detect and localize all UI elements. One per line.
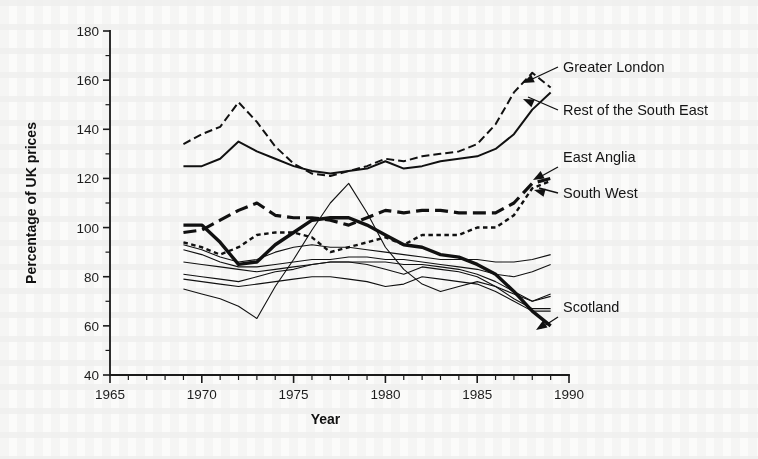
series-line-rest-of-the-south-east	[183, 92, 550, 173]
x-tick-label-1990: 1990	[554, 387, 584, 402]
x-tick-label-1965: 1965	[95, 387, 125, 402]
x-axis-title: Year	[311, 411, 341, 427]
series-label-rest-of-the-south-east: Rest of the South East	[563, 102, 708, 118]
y-tick-label-120: 120	[76, 171, 99, 186]
leader-arrow-rest-of-the-south-east	[523, 99, 535, 107]
y-tick-label-60: 60	[84, 319, 99, 334]
series-line-greater-london	[183, 73, 550, 176]
y-tick-label-160: 160	[76, 73, 99, 88]
leader-arrow-east-anglia	[533, 171, 545, 180]
series-label-south-west: South West	[563, 185, 638, 201]
x-tick-label-1980: 1980	[370, 387, 400, 402]
x-tick-label-1970: 1970	[187, 387, 217, 402]
y-tick-label-140: 140	[76, 122, 99, 137]
x-tick-label-1985: 1985	[462, 387, 492, 402]
series-line-scotland	[183, 218, 550, 326]
series-label-east-anglia: East Anglia	[563, 149, 636, 165]
series-label-greater-london: Greater London	[563, 59, 665, 75]
axis-spines	[110, 31, 569, 375]
y-tick-label-180: 180	[76, 24, 99, 39]
chart-page: 4060801001201401601801965197019751980198…	[0, 0, 758, 459]
leader-arrow-south-west	[534, 189, 546, 197]
line-chart: 4060801001201401601801965197019751980198…	[0, 0, 758, 459]
y-tick-label-80: 80	[84, 270, 99, 285]
x-tick-label-1975: 1975	[279, 387, 309, 402]
y-tick-label-100: 100	[76, 221, 99, 236]
series-line-unlabelled-6	[183, 183, 550, 318]
y-tick-label-40: 40	[84, 368, 99, 383]
series-label-scotland: Scotland	[563, 299, 619, 315]
y-axis-title: Percentage of UK prices	[23, 122, 39, 284]
series-group	[183, 73, 550, 326]
leader-arrow-greater-london	[523, 75, 535, 83]
